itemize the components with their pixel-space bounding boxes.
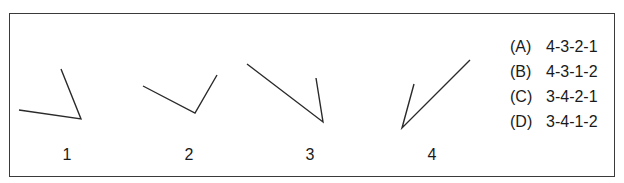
option-letter: (D) [510, 114, 546, 130]
option-text: 3-4-1-2 [546, 113, 598, 130]
option-letter: (A) [510, 39, 546, 55]
angle-figure-2 [143, 75, 217, 113]
angle-figure-3 [247, 64, 323, 122]
answer-options: (A)4-3-2-1 (B)4-3-1-2 (C)3-4-2-1 (D)3-4-… [510, 39, 598, 139]
angle-figure-4 [402, 60, 470, 128]
option-text: 4-3-2-1 [546, 38, 598, 55]
option-letter: (C) [510, 89, 546, 105]
option-letter: (B) [510, 64, 546, 80]
figure-label-4: 4 [422, 147, 442, 163]
figure-label-2: 2 [179, 147, 199, 163]
figure-label-3: 3 [300, 147, 320, 163]
option-d: (D)3-4-1-2 [510, 114, 598, 139]
option-c: (C)3-4-2-1 [510, 89, 598, 114]
angle-figure-1 [19, 69, 81, 119]
option-b: (B)4-3-1-2 [510, 64, 598, 89]
option-text: 4-3-1-2 [546, 63, 598, 80]
option-a: (A)4-3-2-1 [510, 39, 598, 64]
figure-label-1: 1 [57, 147, 77, 163]
option-text: 3-4-2-1 [546, 88, 598, 105]
